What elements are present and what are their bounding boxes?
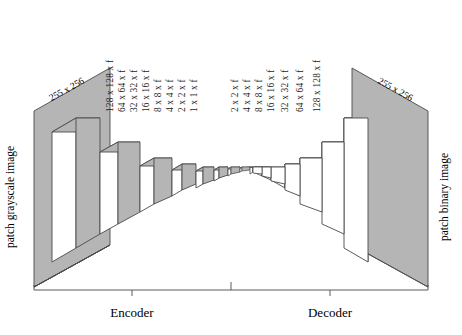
input-image-label: patch grayscale image xyxy=(4,146,17,248)
encoder-block-64 xyxy=(100,142,140,234)
encoder-layer-label-3: 16 x 16 x f xyxy=(141,69,151,112)
decoder-layer-label-3: 16 x 16 x f xyxy=(266,69,276,112)
decoder-layer-label-1: 4 x 4 x f xyxy=(242,79,252,112)
encoder-block-2 xyxy=(228,167,240,176)
encoder-layer-label-0: 128 x 128 x f xyxy=(105,59,115,112)
decoder-layer-label-6: 128 x 128 x f xyxy=(312,59,322,112)
encoder-layer-label-2: 32 x 32 x f xyxy=(129,69,139,112)
decoder-layer-label-2: 8 x 8 x f xyxy=(254,79,264,112)
decoder-layer-label-4: 32 x 32 x f xyxy=(280,69,290,112)
encoder-block-4 xyxy=(214,167,228,181)
encoder-block-32 xyxy=(140,158,172,212)
encoder-layer-label-7: 1 x 1 x f xyxy=(189,79,199,112)
bottleneck-block-1 xyxy=(240,167,250,172)
span-brace xyxy=(34,282,428,296)
encoder-layer-label-6: 2 x 2 x f xyxy=(177,79,187,112)
decoder-label: Decoder xyxy=(308,305,353,320)
encoder-layer-label-5: 4 x 4 x f xyxy=(165,79,175,112)
decoder-front-faces xyxy=(253,118,368,262)
decoder-layer-label-5: 64 x 64 x f xyxy=(295,69,305,112)
encoder-label: Encoder xyxy=(110,305,154,320)
encoder-layer-label-4: 8 x 8 x f xyxy=(153,79,163,112)
decoder-layer-label-0: 2 x 2 x f xyxy=(230,79,240,112)
autoencoder-architecture-diagram: Encoder Decoder patch grayscale image pa… xyxy=(0,0,462,335)
encoder-block-16 xyxy=(172,164,196,196)
encoder-layer-label-1: 64 x 64 x f xyxy=(117,69,127,112)
encoder-block-8 xyxy=(196,167,214,188)
output-image-label: patch binary image xyxy=(438,153,451,241)
